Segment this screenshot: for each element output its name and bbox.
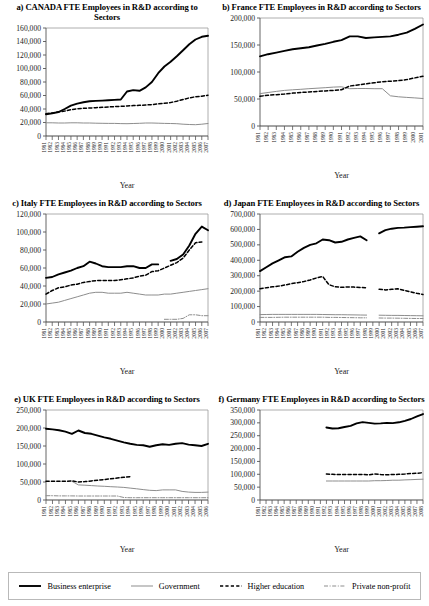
x-tick-label: 2003 [388,506,394,517]
y-tick-label: 100,000 [230,68,255,77]
x-tick-label: 2003 [184,506,190,517]
x-axis-label: Year [120,181,135,190]
series-line [46,289,208,304]
x-tick-label: 2006 [406,506,412,517]
x-tick-label: 1984 [60,506,66,517]
x-tick-label: 1982 [47,328,53,339]
x-tick-label: 1992 [345,132,351,143]
x-tick-label: 1998 [151,506,157,517]
y-tick-label: 300,000 [230,419,255,428]
x-tick-label: 2006 [197,328,203,339]
x-tick-label: 1990 [97,328,103,339]
legend-item: Business enterprise [18,582,110,591]
x-tick-label: 1981 [255,132,261,143]
x-tick-label: 1994 [125,506,131,517]
x-tick-label: 2006 [203,506,209,517]
x-tick-label: 1991 [318,328,324,339]
x-tick-label: 1987 [80,506,86,517]
x-tick-label: 1990 [311,328,317,339]
legend-item: Private non-profit [323,582,410,591]
x-tick-label: 1990 [97,142,103,153]
legend-swatch-dashed [219,582,243,590]
y-tick-label: 60,000 [20,92,41,101]
panel-c-plot: 020,00040,00060,00080,000100,000120,0001… [0,208,214,378]
panel-f-title: f) Germany FTE Employees in R&D accordin… [214,392,429,404]
x-tick-label: 1981 [41,506,47,517]
y-tick-label: 150,000 [230,41,255,50]
panel-b-plot: 050,000100,000150,000200,000198119821983… [214,12,429,182]
y-tick-label: 200,000 [230,14,255,23]
x-tick-label: 1997 [141,328,147,339]
figure-root: a) CANADA FTE Employees in R&D according… [0,0,429,606]
x-tick-label: 1988 [312,132,318,143]
y-tick-label: 700,000 [230,210,255,219]
x-tick-label: 1994 [122,328,128,339]
panel-b-france: b) France FTE Employees in R&D according… [214,0,429,196]
y-tick-label: 50,000 [234,95,255,104]
legend-label: Private non-profit [352,582,410,591]
x-tick-label: 1985 [66,142,72,153]
x-tick-label: 1993 [330,328,336,339]
x-tick-label: 2000 [159,142,165,153]
panel-d-japan: d) Japan FTE Employees in R&D according … [214,196,429,392]
x-tick-label: 2002 [387,328,393,339]
series-line [260,237,367,272]
y-tick-label: 80,000 [20,78,41,87]
x-tick-label: 1985 [67,506,73,517]
y-tick-label: 20,000 [20,119,41,128]
x-tick-label: 1993 [116,142,122,153]
series-line [260,277,367,289]
x-tick-label: 2001 [376,506,382,517]
legend-label: Higher education [248,582,305,591]
series-line [260,315,367,316]
x-tick-label: 1984 [280,132,286,143]
y-tick-label: 200,000 [230,444,255,453]
x-tick-label: 2005 [406,328,412,339]
x-tick-label: 1998 [394,132,400,143]
x-tick-label: 2001 [380,328,386,339]
series-line [46,496,208,498]
x-tick-label: 2004 [184,142,190,153]
x-tick-label: 1995 [343,328,349,339]
x-tick-label: 2004 [184,328,190,339]
x-tick-label: 1987 [291,506,297,517]
x-tick-label: 2002 [172,328,178,339]
x-tick-label: 1983 [54,142,60,153]
x-tick-label: 1988 [85,328,91,339]
figure-legend: Business enterpriseGovernmentHigher educ… [8,572,421,600]
y-tick-label: 0 [37,132,41,141]
series-line [379,227,423,234]
x-tick-label: 1990 [328,132,334,143]
x-tick-label: 1999 [153,328,159,339]
y-tick-label: 40,000 [20,105,41,114]
x-tick-label: 2006 [197,142,203,153]
series-line [171,227,208,261]
series-line [326,479,423,481]
x-tick-label: 1989 [91,328,97,339]
series-line [379,289,423,295]
x-tick-label: 1989 [93,506,99,517]
x-tick-label: 1982 [261,328,267,339]
legend-item: Government [130,582,200,591]
x-tick-label: 2000 [164,506,170,517]
x-tick-label: 1982 [47,142,53,153]
series-line [46,36,208,115]
x-tick-label: 1996 [377,132,383,143]
panel-e-plot: 050,000100,000150,000200,000250,00019811… [0,404,214,556]
x-tick-label: 1987 [304,132,310,143]
y-tick-label: 140,000 [16,38,41,47]
x-tick-label: 1998 [147,142,153,153]
x-tick-label: 1986 [72,328,78,339]
x-tick-label: 1992 [324,328,330,339]
x-tick-label: 1999 [402,132,408,143]
x-tick-label: 1985 [288,132,294,143]
y-tick-label: 50,000 [234,483,255,492]
panel-e-title: e) UK FTE Employees in R&D according to … [0,392,214,404]
x-axis-label: Year [120,367,135,376]
x-tick-label: 1991 [337,132,343,143]
y-tick-label: 0 [251,318,255,327]
panel-d-title: d) Japan FTE Employees in R&D according … [214,196,429,208]
y-tick-label: 0 [37,318,41,327]
x-tick-label: 1999 [158,506,164,517]
legend-swatch-solid [130,582,154,590]
